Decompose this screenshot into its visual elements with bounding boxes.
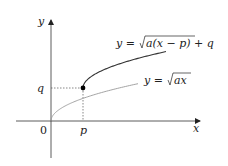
base-label-radicand: ax <box>174 74 188 87</box>
x-axis-label: x <box>193 122 200 135</box>
sqrt-translation-diagram: y x 0 p q y = a(x − p) + q y = ax <box>0 0 228 166</box>
p-label: p <box>80 124 87 137</box>
base-curve-label: y = ax <box>143 73 191 87</box>
curve-base-sqrt-ax <box>51 84 138 121</box>
vertex-point <box>81 86 86 91</box>
shifted-curve-label: y = a(x − p) + q <box>115 36 214 50</box>
y-axis-label: y <box>37 15 45 28</box>
q-label: q <box>37 82 44 95</box>
shifted-label-radicand: a(x − p) <box>146 37 191 50</box>
shifted-label-lhs: y = <box>115 37 135 50</box>
base-label-lhs: y = <box>143 74 163 87</box>
shifted-label-tail: + q <box>194 37 214 50</box>
origin-label: 0 <box>40 124 47 137</box>
